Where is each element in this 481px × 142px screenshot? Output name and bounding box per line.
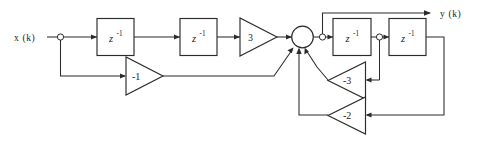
output-label: y (k) [440,8,461,20]
delay-block-z4[interactable] [389,19,426,56]
block-diagram-canvas: z -1 z -1 z -1 z -1 3 -1 -3 -2 x (k) y (… [0,0,481,142]
arrow-output [424,10,431,16]
arrow-into-gain-neg1 [120,73,126,78]
arrow-into-z2 [174,34,180,39]
arrow-into-gain-neg2 [366,112,372,117]
arrow-into-z3 [328,35,334,40]
delay-block-z1-label: z [108,33,113,44]
gain-block-3[interactable] [240,18,277,56]
gain-block-neg2-label: -2 [343,110,351,121]
delay-block-z1[interactable] [97,19,134,56]
junction-node-input-tap[interactable] [57,34,63,40]
signal-flow-graph: z -1 z -1 z -1 z -1 3 -1 -3 -2 x (k) y (… [0,0,481,142]
arrow-into-gain-neg3 [366,77,372,82]
delay-block-z1-exponent: -1 [117,30,123,38]
input-label: x (k) [14,32,35,44]
summing-junction[interactable] [292,26,314,48]
arrow-into-gain3 [234,34,240,39]
wire-gain-neg3-to-summer [306,50,328,80]
arrow-into-z1 [91,34,97,39]
delay-block-z2[interactable] [180,19,217,56]
delay-block-z4-label: z [400,33,405,44]
delay-block-z3-exponent: -1 [353,30,359,38]
delay-block-z3-label: z [345,33,350,44]
junction-node-mid-tap[interactable] [376,34,382,40]
arrow-into-summer-bottom [296,48,301,55]
delay-block-z2-label: z [191,33,196,44]
gain-block-neg1-label: -1 [132,71,140,82]
gain-block-neg3-label: -3 [343,75,351,86]
arrow-into-z4 [384,35,390,40]
gain-block-3-label: 3 [248,32,253,43]
junction-node-output-tap[interactable] [319,34,325,40]
delay-block-z4-exponent: -1 [409,30,415,38]
delay-block-z3[interactable] [333,19,371,56]
delay-block-z2-exponent: -1 [200,30,206,38]
